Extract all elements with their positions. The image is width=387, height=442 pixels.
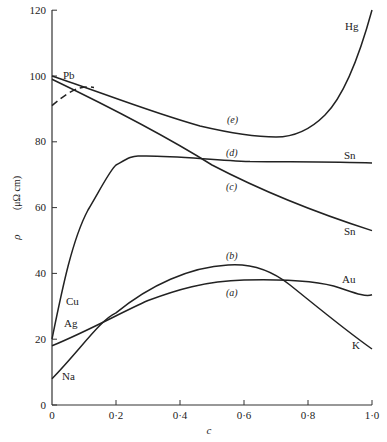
label-cu: Cu [66,295,79,307]
label-hg: Hg [345,20,359,32]
x-tick-label: 0·8 [301,409,316,421]
label-e: (e) [227,114,239,126]
y-tick-labels: 0 20 40 60 80 100 120 [30,4,47,411]
label-au: Au [342,273,356,285]
x-tick-labels: 0 0·2 0·4 0·6 0·8 1·0 [49,409,380,421]
x-tick-label: 0·6 [237,409,252,421]
x-tick-label: 0·4 [173,409,188,421]
curve-c-pb-sn [52,79,372,230]
label-ag: Ag [64,317,78,329]
label-a: (a) [226,287,238,299]
y-tick-label: 120 [30,4,47,16]
y-tick-label: 40 [35,267,47,279]
x-axis-label: c [207,424,212,436]
x-ticks [116,400,372,405]
y-axis-label: ρ (μΩ cm) [10,176,23,241]
x-tick-label: 1·0 [365,409,380,421]
label-d: (d) [226,147,238,159]
label-c: (c) [226,181,238,193]
curves [52,10,372,379]
y-axis-label-symbol: ρ [10,234,22,240]
y-tick-label: 0 [41,399,47,411]
x-tick-label: 0·2 [109,409,124,421]
label-sn-d: Sn [344,149,356,161]
y-axis-label-units: (μΩ cm) [11,176,23,210]
curve-e-pb-hg [52,10,372,137]
label-sn-c: Sn [344,225,356,237]
y-tick-label: 20 [35,333,47,345]
label-pb: Pb [63,69,75,81]
y-tick-label: 100 [30,70,47,82]
y-tick-label: 80 [35,135,47,147]
label-k: K [352,339,360,351]
resistivity-chart: 0 20 40 60 80 100 120 0 0·2 0·4 0·6 0·8 … [0,0,387,442]
curve-b-na-k [52,265,372,379]
curve-labels: Pb Hg Sn Sn Cu Ag Au Na K (a) (b) (c) (d… [62,20,360,382]
label-b: (b) [226,250,238,262]
x-tick-label: 0 [49,409,55,421]
y-tick-label: 60 [35,201,47,213]
label-na: Na [62,370,75,382]
